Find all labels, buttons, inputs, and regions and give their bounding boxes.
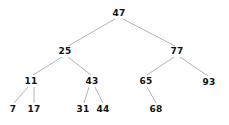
tree-node-25: 25 [59, 47, 72, 56]
tree-edge-n43-n31 [84, 87, 89, 103]
binary-tree-diagram: 47257711436593717314468 [0, 0, 229, 125]
tree-edge-n43-n44 [95, 87, 103, 103]
tree-node-7: 7 [10, 105, 16, 114]
tree-edge-n25-n11 [33, 57, 62, 75]
tree-node-47: 47 [113, 9, 126, 18]
tree-node-77: 77 [171, 47, 184, 56]
tree-edge-n65-n68 [147, 87, 156, 103]
tree-node-44: 44 [97, 105, 110, 114]
tree-node-11: 11 [25, 77, 38, 86]
tree-edge-n47-n25 [68, 19, 115, 46]
tree-edge-n47-n77 [123, 19, 175, 46]
tree-node-17: 17 [28, 105, 41, 114]
tree-edge-n77-n93 [180, 57, 208, 76]
tree-edge-n25-n43 [68, 57, 91, 75]
tree-edge-n11-n7 [14, 87, 28, 103]
tree-node-68: 68 [150, 105, 163, 114]
tree-node-65: 65 [140, 77, 153, 86]
tree-node-93: 93 [203, 78, 216, 87]
tree-edge-n77-n65 [147, 57, 174, 75]
tree-node-31: 31 [77, 105, 90, 114]
tree-node-43: 43 [86, 77, 99, 86]
